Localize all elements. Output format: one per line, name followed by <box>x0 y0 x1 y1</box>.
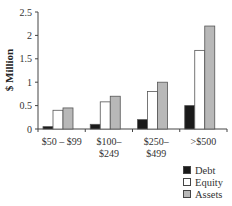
bar-assets <box>205 26 215 129</box>
bar-debt <box>43 127 53 129</box>
legend-swatch-equity <box>183 178 191 186</box>
x-tick-label: $249 <box>99 148 119 159</box>
y-tick-label: 2 <box>27 30 32 41</box>
y-axis: 00.511.522.5 <box>20 7 39 135</box>
bar-assets <box>110 96 120 129</box>
legend-swatch-debt <box>183 166 191 174</box>
legend-item-assets: Assets <box>183 188 223 200</box>
bar-equity <box>148 92 158 129</box>
legend-item-equity: Equity <box>183 176 223 188</box>
x-axis: $50 – $99$100–$249$250–$499>$500 <box>38 129 227 159</box>
legend-item-debt: Debt <box>183 164 223 176</box>
y-axis-title: $ Million <box>3 49 15 91</box>
y-tick-label: 1.5 <box>20 53 33 64</box>
legend-label-equity: Equity <box>195 177 223 188</box>
legend: Debt Equity Assets <box>183 164 223 200</box>
x-tick-label: $499 <box>146 148 166 159</box>
y-tick-label: 0 <box>27 124 32 135</box>
bars <box>43 26 215 129</box>
x-tick-label: $250– <box>144 136 170 147</box>
bar-equity <box>100 102 110 129</box>
bar-assets <box>158 82 168 129</box>
x-tick-label: $100– <box>96 136 122 147</box>
bar-debt <box>138 120 148 129</box>
bar-debt <box>185 106 195 129</box>
y-tick-label: 0.5 <box>20 100 33 111</box>
legend-label-assets: Assets <box>195 189 222 200</box>
y-tick-label: 2.5 <box>20 7 33 18</box>
y-tick-label: 1 <box>27 77 32 88</box>
bar-assets <box>63 108 73 129</box>
bar-equity <box>53 110 63 129</box>
x-tick-label: >$500 <box>191 136 217 147</box>
legend-label-debt: Debt <box>195 165 215 176</box>
legend-swatch-assets <box>183 190 191 198</box>
x-tick-label: $50 – $99 <box>42 136 82 147</box>
bar-debt <box>90 124 100 129</box>
bar-equity <box>195 50 205 129</box>
